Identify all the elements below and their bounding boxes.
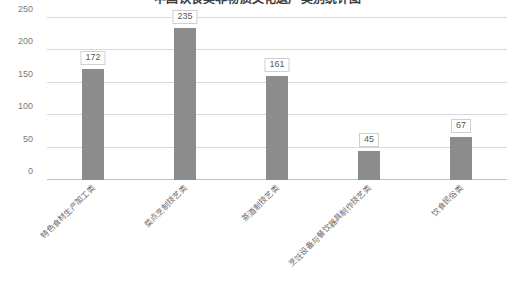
y-tick-label: 200 [0, 37, 33, 46]
x-tick-label: 烹饪设备与餐饮器具制作技艺类 [288, 184, 373, 269]
x-tick-label: 菜点烹制技艺类 [143, 184, 188, 229]
bar-value-label: 172 [80, 51, 105, 65]
y-tick-label: 150 [0, 70, 33, 79]
bar[interactable] [174, 28, 196, 180]
y-tick-label: 0 [0, 167, 33, 176]
bar-value-label: 235 [172, 10, 197, 24]
x-tick-label: 特色食材生产加工类 [40, 184, 97, 241]
x-tick-label: 饮食民俗类 [431, 184, 465, 218]
bar-group[interactable]: 67 [450, 18, 472, 180]
plot-area: 050100150200250 1722351614567 [47, 18, 507, 180]
bar-group[interactable]: 172 [82, 18, 104, 180]
bar[interactable] [450, 137, 472, 180]
bar[interactable] [82, 69, 104, 180]
bar-value-label: 161 [264, 58, 289, 72]
bar-group[interactable]: 161 [266, 18, 288, 180]
bar-value-label: 67 [451, 119, 471, 133]
bar-chart: 中国饮食类非物质文化遗产类别统计图 050100150200250 172235… [0, 0, 516, 282]
bar[interactable] [266, 76, 288, 180]
bar[interactable] [358, 151, 380, 180]
bar-group[interactable]: 45 [358, 18, 380, 180]
y-tick-label: 50 [0, 135, 33, 144]
bar-value-label: 45 [359, 133, 379, 147]
chart-title: 中国饮食类非物质文化遗产类别统计图 [0, 0, 516, 6]
x-tick-label: 茶酒制技艺类 [241, 184, 281, 224]
bar-group[interactable]: 235 [174, 18, 196, 180]
y-tick-label: 100 [0, 102, 33, 111]
y-tick-label: 250 [0, 5, 33, 14]
